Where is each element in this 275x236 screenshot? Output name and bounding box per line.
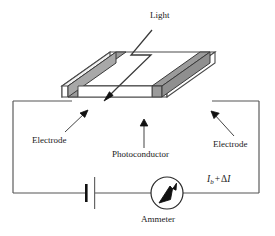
photoconductor-circuit-diagram bbox=[0, 0, 275, 236]
current-delta-symbol: I bbox=[227, 174, 230, 184]
electrode-right-front-block bbox=[152, 86, 162, 97]
arrowhead-electrode-right bbox=[211, 111, 219, 119]
current-operator: + bbox=[214, 174, 221, 184]
label-electrode-right: Electrode bbox=[213, 140, 247, 149]
label-current-equation: Ib+ΔI bbox=[207, 175, 230, 186]
leader-electrode-right bbox=[214, 114, 234, 136]
label-light: Light bbox=[150, 11, 170, 20]
battery-symbol bbox=[85, 177, 95, 209]
battery-short-plate bbox=[85, 184, 88, 202]
photoconductor-slab bbox=[62, 52, 215, 97]
battery-long-plate bbox=[94, 177, 95, 209]
label-electrode-left: Electrode bbox=[32, 136, 66, 145]
label-ammeter: Ammeter bbox=[141, 215, 175, 224]
label-photoconductor: Photoconductor bbox=[112, 150, 169, 159]
leader-electrode-left bbox=[65, 113, 85, 132]
ammeter-meter bbox=[151, 177, 183, 209]
figure-canvas: Light Electrode Photoconductor Electrode… bbox=[0, 0, 275, 236]
leader-lines bbox=[65, 113, 234, 148]
photoconductor-front-region bbox=[78, 86, 152, 97]
arrowhead-photoconductor bbox=[140, 119, 148, 126]
